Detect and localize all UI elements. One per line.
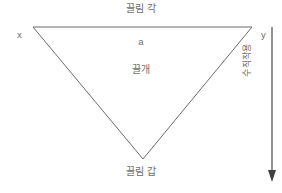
vertical-axis-arrow: [0, 0, 282, 193]
label-vertex-x: x: [17, 30, 22, 40]
label-top-angle: 끌림 각: [0, 4, 282, 14]
label-center-attractor: 끌개: [0, 65, 282, 75]
diagram-canvas: 끌림 각 a 끌개 끌림 갑 x y 수직작용: [0, 0, 282, 193]
label-vertical-axis: 수직작용: [243, 32, 252, 88]
label-bottom-angle: 끌림 갑: [0, 167, 282, 177]
label-vertex-y: y: [261, 30, 266, 40]
label-side-a: a: [0, 37, 282, 47]
